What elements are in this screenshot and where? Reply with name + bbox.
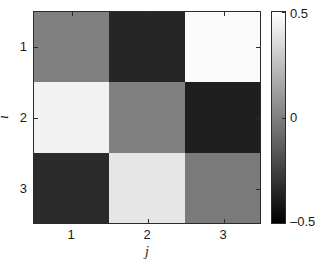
x-tick-label-1: 1: [67, 228, 74, 241]
figure-canvas: 1 2 3 1 2 3 j i 0.5 0 –0.5: [0, 0, 315, 267]
heatmap-grid: [34, 12, 260, 223]
cropped-caption: [4, 259, 264, 267]
y-tick-label-2: 2: [14, 111, 27, 124]
y-tick-label-3: 3: [14, 182, 27, 195]
colorbar-label-mid: 0: [290, 111, 297, 124]
y-tick-label-1: 1: [14, 40, 27, 53]
heatmap-axes: [33, 11, 261, 224]
x-tick-2: [148, 219, 149, 223]
y-tick-right-2: [256, 118, 260, 119]
heatmap-cell-2-3: [185, 82, 260, 152]
x-tick-1: [72, 219, 73, 223]
y-tick-right-3: [256, 189, 260, 190]
heatmap-cell-3-2: [109, 153, 184, 223]
colorbar-tick-0.5: [282, 12, 285, 13]
x-tick-top-1: [72, 12, 73, 16]
colorbar-tick-0: [282, 118, 285, 119]
heatmap-cell-2-1: [34, 82, 109, 152]
x-axis-label: j: [145, 245, 149, 259]
colorbar-label-min: –0.5: [290, 215, 315, 228]
x-tick-top-2: [148, 12, 149, 16]
heatmap-cell-1-3: [185, 12, 260, 82]
x-tick-label-3: 3: [219, 228, 226, 241]
heatmap-cell-3-1: [34, 153, 109, 223]
y-tick-3: [34, 189, 38, 190]
y-axis-label: i: [0, 115, 11, 119]
y-tick-2: [34, 118, 38, 119]
y-tick-1: [34, 47, 38, 48]
heatmap-cell-1-1: [34, 12, 109, 82]
x-tick-3: [224, 219, 225, 223]
colorbar-tick--0.5: [282, 223, 285, 224]
y-tick-right-1: [256, 47, 260, 48]
colorbar: [271, 11, 286, 224]
heatmap-cell-2-2: [109, 82, 184, 152]
heatmap-cell-3-3: [185, 153, 260, 223]
x-tick-top-3: [224, 12, 225, 16]
colorbar-label-max: 0.5: [290, 7, 308, 20]
heatmap-cell-1-2: [109, 12, 184, 82]
x-tick-label-2: 2: [143, 228, 150, 241]
